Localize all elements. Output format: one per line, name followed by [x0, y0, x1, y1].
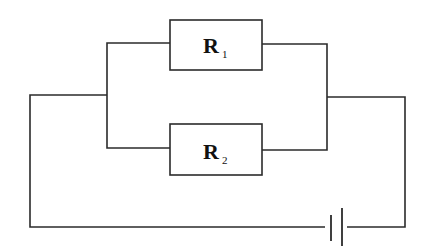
- r1-subscript: 1: [222, 48, 228, 60]
- circuit-diagram: R 1 R 2: [0, 0, 429, 250]
- right-branch-wire: [262, 44, 327, 150]
- r1-label: R: [203, 33, 220, 58]
- left-branch-wire: [107, 43, 170, 148]
- resistor-r2: R 2: [170, 124, 262, 175]
- r2-label: R: [203, 139, 220, 164]
- svg-text:1: 1: [222, 48, 228, 60]
- right-outer-wire: [327, 97, 405, 227]
- battery-icon: [331, 208, 342, 246]
- r2-subscript: 2: [222, 154, 228, 166]
- svg-text:R: R: [203, 139, 220, 164]
- resistor-r1: R 1: [170, 20, 262, 70]
- svg-text:2: 2: [222, 154, 228, 166]
- svg-text:R: R: [203, 33, 220, 58]
